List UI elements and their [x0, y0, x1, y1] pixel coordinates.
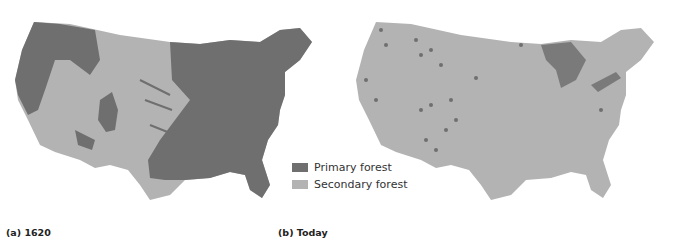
legend-item-primary-forest: Primary forest	[292, 160, 407, 174]
secondary-forest-swatch	[292, 180, 308, 189]
legend-label: Primary forest	[314, 161, 392, 174]
caption-1620: (a) 1620	[6, 227, 51, 238]
caption-today: (b) Today	[278, 227, 328, 238]
legend-label: Secondary forest	[314, 178, 407, 191]
us-map-1620	[0, 0, 340, 210]
legend-item-secondary-forest: Secondary forest	[292, 177, 407, 191]
primary-forest-swatch	[292, 163, 308, 172]
legend: Primary forest Secondary forest	[292, 160, 407, 194]
map-1620	[0, 0, 340, 210]
